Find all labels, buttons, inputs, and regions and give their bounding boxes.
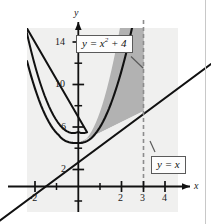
x-axis-label: x	[194, 181, 198, 191]
parabola-equation-suffix: + 4	[108, 37, 126, 49]
line-equation-text: y = x	[157, 158, 180, 170]
figure-container: 14 10 6 2 -2 2 3 4 y x y = x2 + 4 y = x	[0, 0, 211, 224]
y-tick-label-2: 2	[61, 164, 66, 174]
x-tick-label-3: 3	[140, 193, 145, 203]
parabola-equation-prefix: y = x	[82, 37, 105, 49]
x-tick-label-minus-2: -2	[29, 193, 37, 203]
y-axis-label: y	[74, 8, 78, 18]
y-axis-arrowhead	[75, 22, 82, 30]
graph-plot	[0, 0, 211, 224]
y-tick-label-6: 6	[61, 122, 66, 132]
x-tick-label-2: 2	[118, 193, 123, 203]
y-tick-label-14: 14	[55, 37, 65, 47]
y-tick-label-10: 10	[55, 79, 65, 89]
x-tick-label-4: 4	[162, 193, 167, 203]
line-equation-callout: y = x	[151, 156, 186, 174]
parabola-equation-callout: y = x2 + 4	[76, 35, 133, 53]
x-axis-arrowhead	[182, 183, 190, 190]
